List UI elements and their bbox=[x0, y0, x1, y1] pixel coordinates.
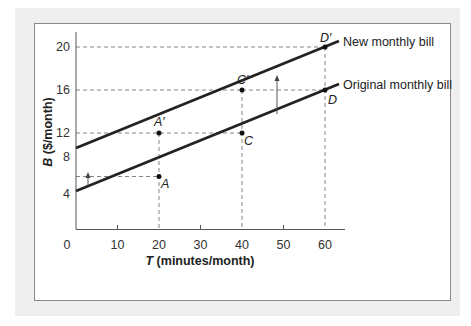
x-ticks bbox=[118, 225, 284, 230]
x-tick-label: 20 bbox=[152, 238, 166, 252]
point-label-c: C bbox=[244, 134, 254, 148]
y-axis-label: B ($/month) bbox=[41, 97, 55, 166]
shift-arrows bbox=[86, 75, 280, 186]
y-tick-label: 4 bbox=[63, 187, 70, 201]
new-bill-label: New monthly bill bbox=[343, 35, 434, 49]
guide-lines bbox=[76, 47, 325, 230]
chart-svg: 0 10 20 30 40 50 60 4 8 12 16 20 T (minu… bbox=[0, 0, 471, 326]
original-bill-line bbox=[76, 84, 339, 191]
point-label-a: A bbox=[160, 177, 169, 191]
new-bill-line bbox=[76, 41, 339, 148]
y-tick-label: 20 bbox=[56, 40, 70, 54]
y-tick-label: 16 bbox=[56, 83, 70, 97]
y-tick-label: 8 bbox=[63, 150, 70, 164]
point-label-c-prime: C′ bbox=[237, 73, 249, 87]
point-label-a-prime: A′ bbox=[153, 115, 165, 129]
point-label-d-prime: D′ bbox=[320, 31, 332, 45]
x-tick-label: 50 bbox=[277, 238, 291, 252]
original-bill-label: Original monthly bill bbox=[343, 78, 452, 92]
x-tick-label: 40 bbox=[235, 238, 249, 252]
point-label-d: D bbox=[328, 93, 337, 107]
x-tick-label: 30 bbox=[194, 238, 208, 252]
point-labels: A C D A′ C′ D′ bbox=[153, 31, 337, 191]
x-tick-label: 10 bbox=[111, 238, 125, 252]
y-tick-label: 12 bbox=[56, 126, 70, 140]
x-tick-label: 60 bbox=[318, 238, 332, 252]
x-axis-label: T (minutes/month) bbox=[145, 254, 254, 268]
x-tick-labels: 0 10 20 30 40 50 60 bbox=[64, 238, 332, 252]
y-tick-labels: 4 8 12 16 20 bbox=[56, 40, 70, 201]
x-tick-label: 0 bbox=[64, 238, 71, 252]
